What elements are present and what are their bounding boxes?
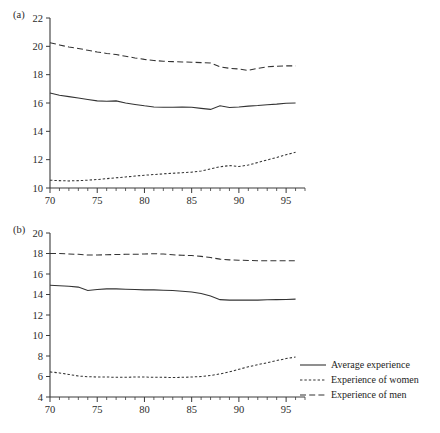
y-tick-label: 20 [33,228,44,239]
panel-a: (a) 10121416182022707580859095 [0,0,330,215]
x-tick-label: 70 [45,195,56,206]
women-line-key [300,375,326,385]
y-tick-label: 14 [33,126,44,137]
series-line-women [50,152,296,181]
x-tick-label: 70 [45,404,56,415]
y-tick-label: 6 [38,371,43,382]
x-tick-label: 75 [92,404,103,415]
y-tick-label: 20 [33,41,44,52]
x-tick-label: 80 [139,404,150,415]
y-tick-label: 22 [33,13,44,24]
y-tick-label: 18 [33,69,44,80]
y-tick-label: 4 [38,392,44,403]
panel-a-plot: 10121416182022707580859095 [0,0,330,215]
y-tick-label: 14 [33,289,44,300]
y-tick-label: 12 [33,154,44,165]
x-tick-label: 75 [92,195,103,206]
legend-label-average: Average experience [331,359,410,371]
x-tick-label: 90 [234,404,245,415]
y-tick-label: 16 [33,98,44,109]
legend-item-men: Experience of men [300,387,440,402]
y-tick-label: 12 [33,310,44,321]
panel-a-label: (a) [13,9,25,20]
series-line-average [50,285,296,300]
series-line-men [50,254,296,261]
y-tick-label: 18 [33,248,44,259]
legend-label-women: Experience of women [331,374,419,386]
y-tick-label: 10 [33,183,44,194]
x-tick-label: 80 [139,195,150,206]
avg-line-key [300,360,326,370]
y-tick-label: 16 [33,269,44,280]
panel-b: (b) 468101214161820707580859095 [0,215,330,433]
legend-item-average: Average experience [300,357,440,372]
panel-b-label: (b) [13,224,25,235]
legend-label-men: Experience of men [331,389,407,401]
y-tick-label: 10 [33,330,44,341]
figure-container: (a) 10121416182022707580859095 (b) 46810… [0,0,440,433]
x-tick-label: 85 [186,404,197,415]
x-tick-label: 85 [186,195,197,206]
series-line-average [50,93,296,109]
legend-item-women: Experience of women [300,372,440,387]
panel-b-plot: 468101214161820707580859095 [0,215,330,433]
series-line-women [50,357,296,378]
x-tick-label: 95 [281,404,292,415]
legend: Average experience Experience of women E… [300,357,440,402]
men-line-key [300,390,326,400]
x-tick-label: 90 [234,195,245,206]
x-tick-label: 95 [281,195,292,206]
y-tick-label: 8 [38,351,43,362]
series-line-men [50,43,296,71]
